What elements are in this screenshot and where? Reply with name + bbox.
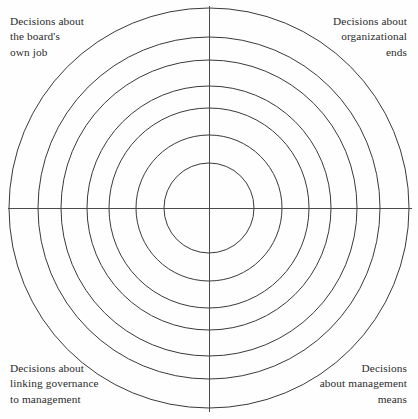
label-organizational-ends: Decisions about organizational ends bbox=[333, 14, 407, 60]
label-board-own-job: Decisions about the board's own job bbox=[10, 14, 84, 60]
label-linking-governance-to-management: Decisions about linking governance to ma… bbox=[10, 361, 99, 407]
diagram-canvas: Decisions about the board's own job Deci… bbox=[0, 0, 418, 419]
label-management-means: Decisions about management means bbox=[320, 361, 407, 407]
concentric-rings-graphic bbox=[0, 0, 418, 419]
